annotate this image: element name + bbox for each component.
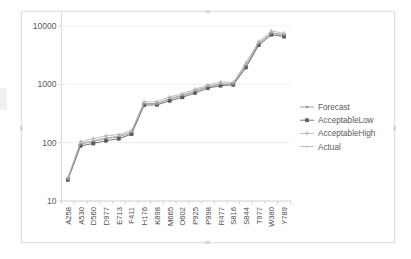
legend-label-forecast: Forecast [318, 103, 351, 112]
x-category-label-T977: T977 [255, 207, 264, 224]
x-axis-category-labels: A258A530D560D977E713F411H176K898M665O602… [64, 207, 289, 227]
data-point-actual-Y789 [283, 34, 285, 36]
x-category-label-W380: W380 [267, 207, 276, 227]
data-point-actual-D977 [105, 137, 107, 139]
series-acceptablelow[interactable] [66, 33, 286, 182]
y-tick-label-1000: 1000 [38, 79, 57, 89]
x-category-label-A530: A530 [77, 207, 86, 225]
data-point-acceptablelow-M665 [168, 99, 171, 102]
y-axis-tick-labels: 10100100010000 [33, 21, 62, 206]
legend-item-acceptablelow[interactable]: AcceptableLow [300, 116, 374, 125]
x-category-label-P925: P925 [191, 207, 200, 225]
data-point-acceptablelow-P925 [193, 91, 196, 94]
x-category-label-Y789: Y789 [280, 207, 289, 225]
data-point-actual-K898 [156, 103, 158, 105]
legend-marker-actual [306, 146, 308, 148]
data-point-actual-R477 [220, 83, 222, 85]
x-category-label-R477: R477 [217, 207, 226, 225]
y-tick-label-100: 100 [42, 138, 56, 148]
legend-label-acceptablelow: AcceptableLow [318, 116, 374, 125]
x-category-label-H176: H176 [140, 207, 149, 225]
y-tick-label-10000: 10000 [33, 21, 57, 31]
x-category-label-A258: A258 [64, 207, 73, 225]
data-point-actual-P925 [194, 90, 196, 92]
x-category-label-S844: S844 [242, 207, 251, 225]
x-category-label-K898: K898 [153, 207, 162, 225]
legend-label-actual: Actual [318, 143, 341, 152]
chart-container: 10100100010000 A258A530D560D977E713F411H… [0, 0, 411, 259]
x-category-label-S816: S816 [229, 207, 238, 225]
x-category-label-M665: M665 [166, 207, 175, 226]
data-point-actual-P998 [207, 85, 209, 87]
x-category-label-O602: O602 [178, 207, 187, 226]
data-point-actual-A258 [67, 178, 69, 180]
legend-marker-forecast [306, 106, 309, 109]
data-point-actual-T977 [258, 42, 260, 44]
legend-label-acceptablehigh: AcceptableHigh [318, 129, 376, 138]
x-category-label-F411: F411 [127, 207, 136, 224]
legend-item-forecast[interactable]: Forecast [300, 103, 351, 112]
data-point-actual-F411 [131, 131, 133, 133]
x-category-label-E713: E713 [115, 207, 124, 225]
x-category-label-P998: P998 [204, 207, 213, 225]
data-point-actual-A530 [80, 143, 82, 145]
legend-item-acceptablehigh[interactable]: AcceptableHigh [300, 129, 376, 138]
y-tick-label-10: 10 [47, 196, 57, 206]
data-point-acceptablelow-D977 [104, 139, 107, 142]
data-point-actual-M665 [169, 97, 171, 99]
legend-marker-acceptablelow [305, 119, 308, 122]
data-point-acceptablelow-D560 [92, 142, 95, 145]
chart-legend[interactable]: ForecastAcceptableLowAcceptableHighActua… [300, 103, 376, 152]
legend-marker-acceptablehigh [305, 131, 309, 135]
data-point-actual-D560 [92, 140, 94, 142]
legend-item-actual[interactable]: Actual [300, 143, 341, 152]
series-forecast[interactable] [67, 32, 286, 180]
data-series-group [66, 29, 286, 182]
data-point-actual-W380 [271, 32, 273, 34]
data-point-actual-E713 [118, 135, 120, 137]
data-point-actual-S844 [245, 61, 247, 63]
data-point-actual-S816 [232, 83, 234, 85]
series-line-actual [68, 33, 284, 179]
data-point-actual-H176 [143, 103, 145, 105]
x-category-label-D560: D560 [89, 207, 98, 225]
data-point-acceptablelow-E713 [117, 137, 120, 140]
axis-lines [62, 14, 291, 201]
x-axis-tick-marks [62, 201, 291, 204]
gridlines [62, 26, 291, 201]
plot-area: 10100100010000 A258A530D560D977E713F411H… [0, 0, 411, 259]
x-category-label-D977: D977 [102, 207, 111, 225]
data-point-actual-O602 [181, 94, 183, 96]
